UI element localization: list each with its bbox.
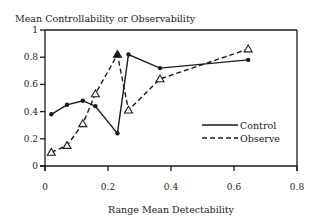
x-tick-label: 0	[42, 182, 48, 192]
axes	[40, 30, 297, 171]
data-point-control	[158, 66, 162, 70]
data-point-control	[93, 104, 97, 108]
legend-control-label: Control	[240, 120, 276, 131]
data-point-observe	[91, 90, 99, 97]
x-tick-label: 0.4	[164, 182, 179, 192]
x-tick-label: 0.8	[290, 182, 305, 192]
y-axis-ticks: 00.20.40.60.81	[24, 25, 45, 171]
data-point-control	[246, 58, 250, 62]
data-point-control	[115, 131, 119, 135]
legend-observe-label: Observe	[240, 133, 280, 144]
data-point-control	[126, 52, 130, 56]
x-axis-ticks: 00.20.40.60.8	[42, 166, 304, 192]
y-tick-label: 1	[32, 25, 38, 35]
data-point-observe	[113, 50, 121, 57]
data-point-control	[81, 99, 85, 103]
y-tick-label: 0.8	[24, 52, 39, 62]
y-tick-label: 0.2	[24, 134, 38, 144]
data-point-observe	[79, 120, 87, 127]
series-line-control	[51, 55, 248, 134]
data-point-observe	[124, 106, 132, 113]
x-tick-label: 0.2	[101, 182, 115, 192]
data-point-observe	[63, 142, 71, 149]
series-observe	[47, 45, 252, 155]
line-chart: Mean Controllability or Observability 00…	[0, 0, 323, 224]
y-tick-label: 0	[32, 161, 38, 171]
data-point-observe	[244, 45, 252, 52]
legend: Control Observe	[202, 120, 280, 144]
data-point-control	[65, 103, 69, 107]
data-point-control	[49, 112, 53, 116]
series-layer	[47, 45, 252, 155]
y-tick-label: 0.6	[24, 79, 39, 89]
series-control	[49, 52, 250, 135]
y-tick-label: 0.4	[24, 107, 39, 117]
x-tick-label: 0.6	[227, 182, 242, 192]
chart-title: Mean Controllability or Observability	[15, 13, 196, 24]
x-axis-title: Range Mean Detectability	[108, 204, 235, 215]
